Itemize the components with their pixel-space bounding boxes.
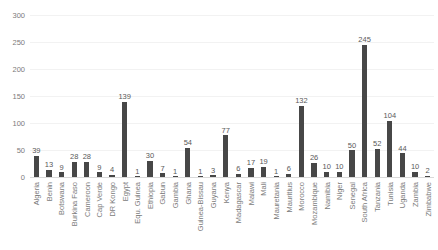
bar-group[interactable]: 19	[257, 15, 270, 177]
bar-group[interactable]: 50	[346, 15, 359, 177]
category-label: Equ. Guinea	[134, 182, 142, 224]
bar-group[interactable]: 10	[409, 15, 422, 177]
category-label: Tanzania	[374, 182, 382, 212]
bar-value-label: 28	[83, 152, 91, 161]
bar-group[interactable]: 1	[194, 15, 207, 177]
category-label-slot: Tunisia	[384, 180, 397, 248]
bar[interactable]	[173, 176, 178, 177]
bar[interactable]	[311, 163, 316, 177]
bar[interactable]	[412, 172, 417, 177]
bar-group[interactable]: 26	[308, 15, 321, 177]
bar[interactable]	[109, 175, 114, 177]
bar-group[interactable]: 4	[106, 15, 119, 177]
bar-group[interactable]: 77	[219, 15, 232, 177]
bar[interactable]	[324, 172, 329, 177]
category-label-slot: Algeria	[30, 180, 43, 248]
y-axis-tick-label: 300	[0, 11, 25, 20]
category-label-slot: Zambia	[409, 180, 422, 248]
bar[interactable]	[97, 172, 102, 177]
bar[interactable]	[147, 161, 152, 177]
bar[interactable]	[299, 106, 304, 177]
bar-group[interactable]: 39	[30, 15, 43, 177]
bar-group[interactable]: 44	[396, 15, 409, 177]
bar-group[interactable]: 7	[156, 15, 169, 177]
bar[interactable]	[337, 172, 342, 177]
bar[interactable]	[274, 176, 279, 177]
bar[interactable]	[135, 176, 140, 177]
category-label: Gambia	[172, 182, 180, 208]
category-label-slot: Ethiopia	[144, 180, 157, 248]
category-label-slot: Uganda	[396, 180, 409, 248]
bar[interactable]	[185, 148, 190, 177]
bar[interactable]	[122, 102, 127, 177]
bar[interactable]	[425, 176, 430, 177]
category-label-slot: Equ. Guinea	[131, 180, 144, 248]
bar-value-label: 1	[274, 167, 278, 176]
bar-group[interactable]: 1	[131, 15, 144, 177]
bar[interactable]	[210, 175, 215, 177]
bar-group[interactable]: 245	[358, 15, 371, 177]
category-label-slot: Cameroon	[81, 180, 94, 248]
bar-value-label: 39	[32, 146, 40, 155]
bar-group[interactable]: 132	[295, 15, 308, 177]
bar-group[interactable]: 6	[232, 15, 245, 177]
bar[interactable]	[46, 170, 51, 177]
bar[interactable]	[34, 156, 39, 177]
bar[interactable]	[261, 167, 266, 177]
bar[interactable]	[160, 173, 165, 177]
bar-value-label: 54	[184, 138, 192, 147]
category-label: Cap Verde	[96, 182, 104, 217]
y-axis-tick-label: 250	[0, 38, 25, 47]
category-label-slot: Cap Verde	[93, 180, 106, 248]
bar-group[interactable]: 30	[144, 15, 157, 177]
bar-group[interactable]: 1	[169, 15, 182, 177]
category-label-slot: Guyana	[207, 180, 220, 248]
bar[interactable]	[223, 135, 228, 177]
bar[interactable]	[400, 153, 405, 177]
bar-group[interactable]: 2	[421, 15, 434, 177]
bar-group[interactable]: 9	[55, 15, 68, 177]
bar[interactable]	[59, 172, 64, 177]
bar-group[interactable]: 9	[93, 15, 106, 177]
bar-group[interactable]: 6	[283, 15, 296, 177]
bar[interactable]	[387, 121, 392, 177]
bar[interactable]	[286, 174, 291, 177]
bar[interactable]	[248, 168, 253, 177]
bar-group[interactable]: 1	[270, 15, 283, 177]
bar[interactable]	[375, 149, 380, 177]
bar-group[interactable]: 10	[333, 15, 346, 177]
bar-group[interactable]: 54	[182, 15, 195, 177]
bar[interactable]	[349, 150, 354, 177]
bar-group[interactable]: 28	[68, 15, 81, 177]
bar-value-label: 9	[97, 163, 101, 172]
bar-value-label: 104	[384, 111, 397, 120]
y-axis-tick-label: 0	[0, 173, 25, 182]
bar-group[interactable]: 13	[43, 15, 56, 177]
bar-value-label: 9	[59, 163, 63, 172]
bar[interactable]	[236, 174, 241, 177]
bar-value-label: 28	[70, 152, 78, 161]
bar-group[interactable]: 104	[384, 15, 397, 177]
category-label-slot: Ghana	[182, 180, 195, 248]
bar-chart: 050100150200250300 391392828941391307154…	[0, 0, 438, 250]
bar-group[interactable]: 52	[371, 15, 384, 177]
category-label-slot: DR Kongo	[106, 180, 119, 248]
y-axis-tick-label: 200	[0, 65, 25, 74]
bar-value-label: 1	[173, 167, 177, 176]
bar[interactable]	[72, 162, 77, 177]
category-label: Mauretania	[273, 182, 281, 220]
category-label: Zimbabwe	[425, 182, 433, 217]
category-label: Niger	[336, 182, 344, 200]
y-axis-tick-label: 50	[0, 146, 25, 155]
bar-group[interactable]: 10	[320, 15, 333, 177]
bar-group[interactable]: 28	[81, 15, 94, 177]
bar[interactable]	[362, 45, 367, 177]
bar[interactable]	[198, 176, 203, 177]
bar-group[interactable]: 139	[118, 15, 131, 177]
bar[interactable]	[84, 162, 89, 177]
bar-group[interactable]: 17	[245, 15, 258, 177]
bar-value-label: 3	[211, 166, 215, 175]
category-label: Burkina Faso	[71, 182, 79, 226]
bar-group[interactable]: 3	[207, 15, 220, 177]
bar-value-label: 77	[222, 126, 230, 135]
